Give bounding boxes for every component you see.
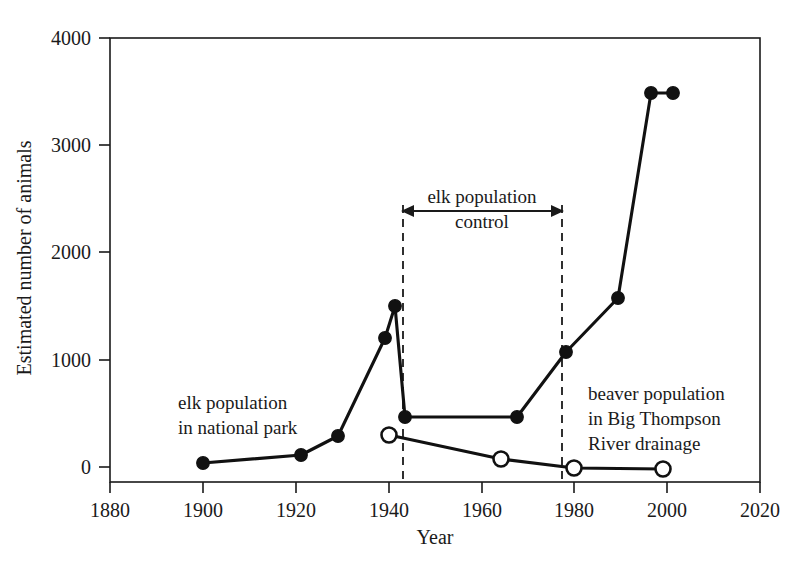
- elk-data-point: [511, 411, 524, 424]
- x-tick-label: 1900: [183, 499, 223, 521]
- x-axis-tick-labels: 1880 1900 1920 1940 1960 1980 2000 2020: [90, 499, 780, 521]
- beaver-data-point: [656, 462, 671, 477]
- elk-label-line-1: elk population: [178, 392, 288, 413]
- y-axis-title: Estimated number of animals: [13, 140, 35, 375]
- x-tick-label: 1880: [90, 499, 130, 521]
- control-annotation-line-2: control: [455, 211, 509, 232]
- elk-data-point: [389, 300, 402, 313]
- elk-data-point: [332, 430, 345, 443]
- beaver-series-label: beaver population in Big Thompson River …: [588, 383, 725, 454]
- elk-data-point: [399, 411, 412, 424]
- elk-data-point: [645, 87, 658, 100]
- beaver-data-point: [382, 428, 397, 443]
- y-tick-label: 3000: [51, 134, 91, 156]
- x-tick-label: 1980: [554, 499, 594, 521]
- beaver-data-point: [494, 452, 509, 467]
- elk-series-label: elk population in national park: [178, 392, 298, 438]
- y-tick-label: 2000: [51, 241, 91, 263]
- elk-data-point: [560, 346, 573, 359]
- y-axis-tick-labels: 0 1000 2000 3000 4000: [51, 27, 91, 478]
- chart-figure: 1880 1900 1920 1940 1960 1980 2000 2020 …: [0, 0, 803, 566]
- elk-data-point: [667, 87, 680, 100]
- elk-population-control-annotation: elk population control: [401, 186, 564, 232]
- y-tick-label: 0: [81, 456, 91, 478]
- beaver-data-point: [567, 461, 582, 476]
- x-tick-label: 2000: [647, 499, 687, 521]
- beaver-label-line-3: River drainage: [588, 433, 700, 454]
- beaver-label-line-2: in Big Thompson: [588, 408, 721, 429]
- y-axis-ticks: [99, 38, 110, 467]
- elk-label-line-2: in national park: [178, 417, 298, 438]
- y-tick-label: 4000: [51, 27, 91, 49]
- x-tick-label: 1960: [462, 499, 502, 521]
- elk-data-point: [197, 457, 210, 470]
- control-annotation-line-1: elk population: [427, 186, 537, 207]
- beaver-label-line-1: beaver population: [588, 383, 725, 404]
- elk-data-point: [295, 449, 308, 462]
- x-axis-title: Year: [417, 526, 454, 548]
- x-axis-ticks: [110, 482, 760, 493]
- x-tick-label: 2020: [740, 499, 780, 521]
- y-tick-label: 1000: [51, 349, 91, 371]
- x-tick-label: 1940: [369, 499, 409, 521]
- elk-data-point: [612, 292, 625, 305]
- elk-data-point: [379, 332, 392, 345]
- chart-canvas: 1880 1900 1920 1940 1960 1980 2000 2020 …: [0, 0, 803, 566]
- x-tick-label: 1920: [276, 499, 316, 521]
